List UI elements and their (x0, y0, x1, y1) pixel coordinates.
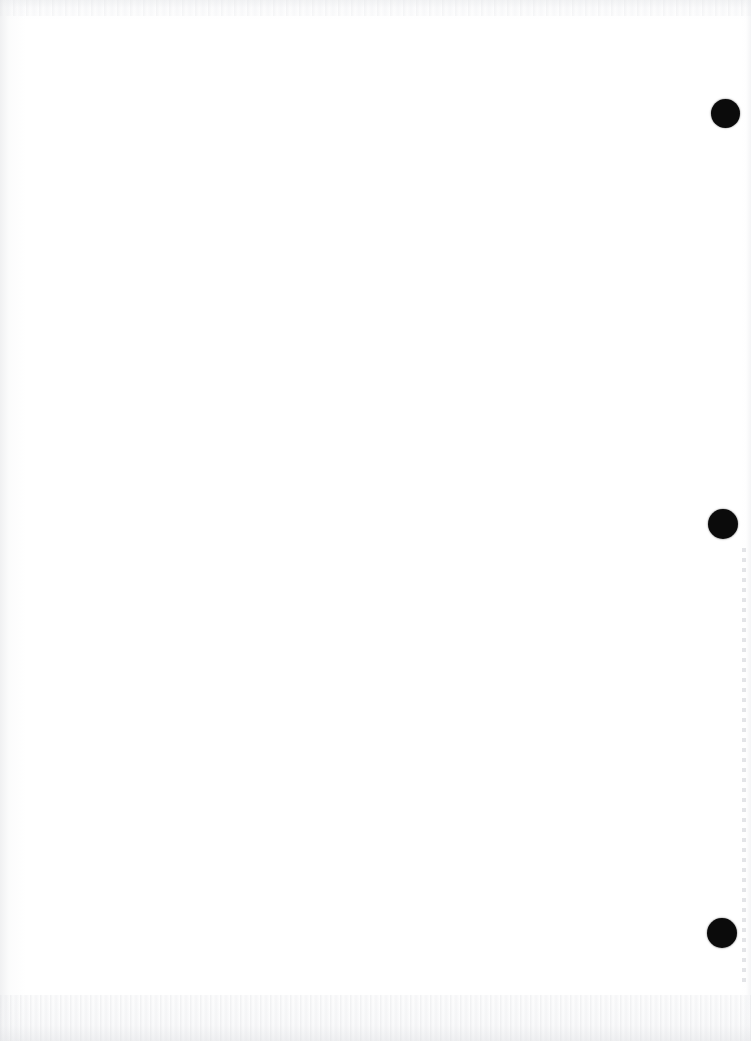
punch-hole-middle (708, 509, 738, 539)
paper-surface (0, 0, 751, 1041)
scanned-document-page (0, 0, 751, 1041)
scan-edge-noise-top (0, 0, 751, 16)
scan-edge-noise-bottom (0, 995, 751, 1041)
punch-hole-top (711, 99, 740, 128)
punch-hole-bottom (707, 918, 737, 948)
perforation-dot-strip (742, 548, 746, 988)
